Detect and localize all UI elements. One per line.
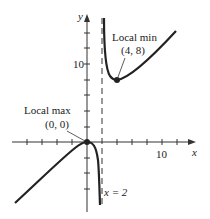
local-max-coords: (0, 0) [45,118,69,131]
local-min-leader [118,58,125,77]
local-min-coords: (4, 8) [121,44,145,57]
function-graph: y x 10 10 Local max (0, 0) Local min (4,… [0,0,210,219]
local-min-title: Local min [112,31,157,43]
y-axis-label: y [77,10,83,22]
y-tick-label-10: 10 [73,58,85,70]
x-axis-label: x [191,146,197,158]
x-axis-arrow-icon [188,139,196,145]
local-max-title: Local max [24,104,71,116]
local-min-point [114,77,120,83]
asymptote-label: x = 2 [103,186,128,198]
y-axis-arrow-icon [84,14,90,22]
x-tick-label-10: 10 [156,148,168,160]
local-max-point [84,139,90,145]
local-max-leader [67,131,85,141]
